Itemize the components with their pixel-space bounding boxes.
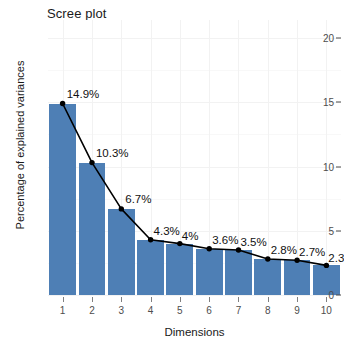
data-point-label: 3.5% xyxy=(240,236,266,248)
data-point-label: 2.3 xyxy=(328,252,344,264)
y-tick-mark xyxy=(336,295,341,296)
data-point-label: 4.3% xyxy=(154,225,180,237)
data-point-label: 2.7% xyxy=(299,246,325,258)
grid-line-vertical xyxy=(297,20,298,295)
x-tick-mark xyxy=(92,297,93,302)
bar xyxy=(284,260,311,295)
x-tick-label: 9 xyxy=(294,305,300,316)
grid-line-horizontal xyxy=(48,295,341,296)
x-tick-mark xyxy=(121,297,122,302)
grid-line-vertical xyxy=(268,20,269,295)
bar xyxy=(225,250,252,295)
x-axis-title: Dimensions xyxy=(48,326,341,338)
bar xyxy=(166,244,193,295)
x-tick-label: 4 xyxy=(148,305,154,316)
y-axis-title: Percentage of explained variances xyxy=(14,0,28,290)
x-tick-mark xyxy=(63,297,64,302)
x-tick-mark xyxy=(151,297,152,302)
y-tick-label: 10 xyxy=(323,161,334,172)
y-tick-label: 20 xyxy=(323,33,334,44)
x-tick-label: 6 xyxy=(206,305,212,316)
bar xyxy=(196,249,223,295)
y-tick-label: 5 xyxy=(328,225,334,236)
x-tick-label: 8 xyxy=(265,305,271,316)
data-point-label: 14.9% xyxy=(67,88,100,100)
bar xyxy=(137,240,164,295)
x-tick-label: 10 xyxy=(321,305,332,316)
bar xyxy=(108,209,135,295)
x-tick-mark xyxy=(209,297,210,302)
data-point-label: 2.8% xyxy=(271,244,297,256)
data-point-label: 10.3% xyxy=(96,147,129,159)
x-tick-label: 7 xyxy=(236,305,242,316)
y-tick-mark xyxy=(336,102,341,103)
x-tick-mark xyxy=(180,297,181,302)
bar xyxy=(79,163,106,295)
page-title: Scree plot xyxy=(47,6,107,21)
x-tick-label: 1 xyxy=(60,305,66,316)
bar xyxy=(313,265,340,295)
x-tick-mark xyxy=(326,297,327,302)
y-tick-mark xyxy=(336,38,341,39)
bar xyxy=(49,104,76,295)
plot-panel xyxy=(48,20,341,295)
x-tick-label: 5 xyxy=(177,305,183,316)
x-tick-mark xyxy=(297,297,298,302)
y-tick-mark xyxy=(336,166,341,167)
y-tick-label: 0 xyxy=(328,290,334,301)
data-point-label: 3.6% xyxy=(212,234,238,246)
y-tick-mark xyxy=(336,230,341,231)
x-tick-mark xyxy=(268,297,269,302)
bar xyxy=(254,259,281,295)
x-tick-mark xyxy=(238,297,239,302)
scree-plot-figure: Scree plot Percentage of explained varia… xyxy=(0,0,344,347)
x-tick-label: 2 xyxy=(89,305,95,316)
y-tick-label: 15 xyxy=(323,97,334,108)
x-tick-label: 3 xyxy=(118,305,124,316)
grid-line-vertical xyxy=(326,20,327,295)
data-point-label: 6.7% xyxy=(125,193,151,205)
data-point-label: 4% xyxy=(182,230,199,242)
